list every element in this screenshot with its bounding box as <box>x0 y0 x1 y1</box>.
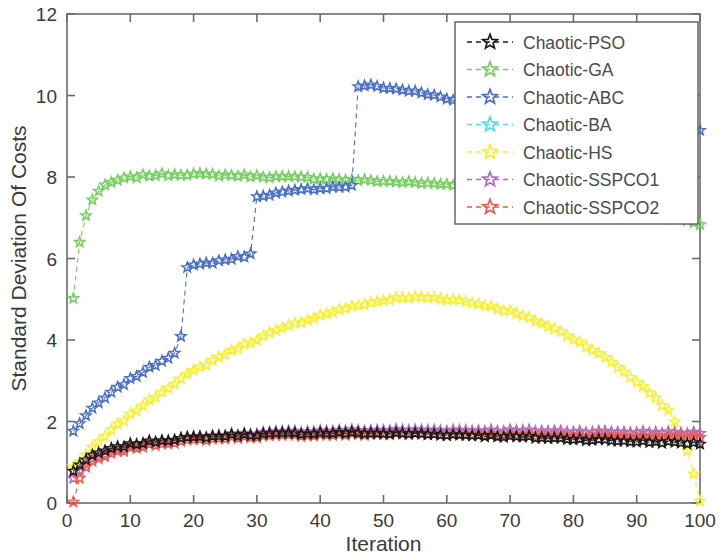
legend-layer[interactable]: Chaotic-PSOChaotic-GAChaotic-ABCChaotic-… <box>455 22 698 224</box>
y-tick-label: 10 <box>36 86 57 107</box>
x-tick-label: 90 <box>626 510 647 531</box>
y-tick-label: 8 <box>46 167 57 188</box>
x-axis-title: Iteration <box>346 532 422 555</box>
legend-label: Chaotic-SSPCO2 <box>523 198 659 218</box>
x-tick-label: 100 <box>684 510 716 531</box>
y-tick-label: 6 <box>46 249 57 270</box>
y-tick-label: 4 <box>46 330 57 351</box>
y-tick-label: 2 <box>46 412 57 433</box>
x-tick-label: 60 <box>436 510 457 531</box>
x-tick-label: 40 <box>310 510 331 531</box>
legend-label: Chaotic-HS <box>523 143 612 163</box>
legend-label: Chaotic-PSO <box>523 33 625 53</box>
x-tick-label: 50 <box>373 510 394 531</box>
x-tick-label: 10 <box>120 510 141 531</box>
x-tick-label: 30 <box>246 510 267 531</box>
y-axis-title: Standard Deviation Of Costs <box>7 125 30 391</box>
chart-figure: 0102030405060708090100024681012 Chaotic-… <box>0 0 720 560</box>
x-tick-label: 0 <box>62 510 73 531</box>
legend-label: Chaotic-GA <box>523 60 614 80</box>
x-tick-label: 80 <box>563 510 584 531</box>
y-tick-label: 12 <box>36 4 57 25</box>
legend-label: Chaotic-ABC <box>523 88 624 108</box>
y-tick-label: 0 <box>46 493 57 514</box>
legend-label: Chaotic-BA <box>523 115 612 135</box>
x-tick-label: 20 <box>183 510 204 531</box>
legend-label: Chaotic-SSPCO1 <box>523 170 659 190</box>
x-tick-label: 70 <box>500 510 521 531</box>
